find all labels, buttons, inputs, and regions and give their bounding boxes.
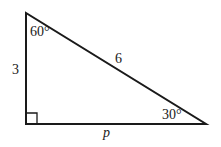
right-angle-marker	[26, 113, 37, 124]
side-left-label: 3	[12, 63, 19, 77]
triangle-figure	[0, 0, 221, 147]
hypotenuse-label: 6	[115, 52, 122, 66]
angle-bottom-right-label: 30°	[162, 108, 182, 122]
side-bottom-label: p	[103, 126, 110, 140]
angle-top-label: 60°	[30, 25, 50, 39]
